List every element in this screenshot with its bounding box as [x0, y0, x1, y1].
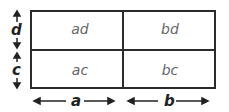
label-b: b — [164, 94, 175, 109]
label-d: d — [11, 23, 22, 38]
label-c: c — [12, 63, 21, 78]
dimension-arrows — [0, 0, 229, 112]
label-a: a — [71, 94, 81, 109]
